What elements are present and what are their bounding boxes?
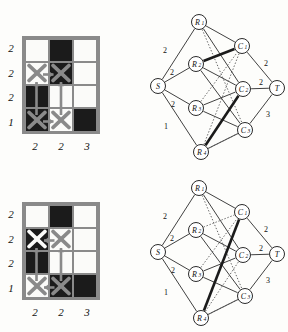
- edge-weight-label: 2: [163, 212, 167, 221]
- node-label: R: [191, 60, 197, 69]
- grid-cell[interactable]: [50, 86, 73, 108]
- edge-weight-label: 2: [170, 68, 174, 77]
- graph-node[interactable]: C2: [236, 248, 251, 263]
- edge-weight-label: 3: [266, 110, 270, 119]
- graph-node[interactable]: R3: [189, 267, 204, 282]
- graph-edge-source: [162, 195, 194, 245]
- graph-node[interactable]: R1: [192, 181, 207, 196]
- edge-weight-label: 2: [171, 266, 175, 275]
- grid-cell[interactable]: [74, 86, 97, 108]
- graph-edge-dotted: [204, 215, 235, 227]
- node-layer: SR1R2R3R4C1C2C3T: [151, 181, 285, 326]
- graph-node[interactable]: C1: [235, 39, 250, 54]
- graph-node[interactable]: R2: [189, 223, 204, 238]
- node-label: T: [275, 250, 280, 259]
- graph-edge-dotted: [204, 54, 239, 145]
- grid-cell[interactable]: [74, 229, 97, 251]
- row-label: 1: [2, 110, 20, 135]
- node-subscript: 3: [198, 106, 202, 112]
- graph-node[interactable]: C3: [238, 289, 253, 304]
- graph-edge: [201, 237, 240, 290]
- node-label: R: [191, 226, 197, 235]
- grid-cell[interactable]: [50, 109, 73, 131]
- edge-weight-label: 1: [164, 288, 168, 297]
- node-subscript: 2: [246, 87, 249, 93]
- graph-edge-sink: [251, 254, 269, 255]
- grid-cell[interactable]: [74, 109, 97, 131]
- grid-cell[interactable]: [26, 40, 49, 62]
- col-label: 3: [74, 304, 100, 320]
- grid-cell[interactable]: [26, 109, 49, 131]
- node-subscript: 2: [199, 228, 202, 234]
- col-label: 3: [74, 138, 100, 154]
- grid-cell[interactable]: [26, 63, 49, 85]
- graph-node[interactable]: T: [270, 81, 285, 96]
- grid-cell[interactable]: [74, 252, 97, 274]
- cross-icon: [50, 229, 73, 251]
- node-subscript: 3: [198, 272, 202, 278]
- grid-cell[interactable]: [74, 63, 97, 85]
- grid-frame: [22, 36, 100, 134]
- grid-cell[interactable]: [50, 229, 73, 251]
- graph-edge-source: [162, 259, 196, 311]
- graph-node[interactable]: R3: [189, 101, 204, 116]
- node-subscript: 2: [246, 253, 249, 259]
- row-label-group: 2221: [2, 202, 20, 300]
- graph-node[interactable]: S: [151, 245, 166, 260]
- graph-edge-highlighted: [204, 220, 239, 311]
- col-label-group: 223: [22, 304, 100, 320]
- grid-cell[interactable]: [50, 40, 73, 62]
- graph-node[interactable]: C1: [235, 205, 250, 220]
- graph-node[interactable]: R1: [192, 15, 207, 30]
- grid-cell[interactable]: [26, 206, 49, 228]
- flow-network-graph: 2221223SR1R2R3R4C1C2C3T: [146, 6, 286, 164]
- graph-node[interactable]: S: [151, 79, 166, 94]
- node-label: C: [239, 251, 245, 260]
- grid-cell[interactable]: [26, 252, 49, 274]
- edge-layer: [162, 192, 272, 314]
- cross-icon: [26, 229, 49, 251]
- grid-cell[interactable]: [26, 275, 49, 297]
- graph-edge-highlighted: [204, 49, 235, 61]
- grid-cell[interactable]: [50, 63, 73, 85]
- grid-cell[interactable]: [26, 229, 49, 251]
- grid-cell[interactable]: [74, 40, 97, 62]
- col-label: 2: [22, 138, 48, 154]
- graph-node[interactable]: C2: [236, 82, 251, 97]
- grid-cell[interactable]: [74, 275, 97, 297]
- row-label: 2: [2, 85, 20, 110]
- cross-icon: [50, 63, 73, 85]
- graph-node[interactable]: R2: [189, 57, 204, 72]
- node-label: R: [194, 184, 200, 193]
- node-subscript: 3: [247, 128, 251, 134]
- edge-weight-label: 2: [171, 100, 175, 109]
- node-label: C: [241, 292, 247, 301]
- node-subscript: 4: [204, 150, 207, 156]
- node-label: C: [241, 126, 247, 135]
- edge-weight-label: 2: [264, 225, 268, 234]
- graph-node[interactable]: C3: [238, 123, 253, 138]
- graph-node[interactable]: R4: [194, 311, 209, 326]
- cross-icon: [50, 275, 73, 297]
- edge-layer: [162, 26, 272, 148]
- grid-cell[interactable]: [50, 275, 73, 297]
- node-subscript: 3: [247, 294, 251, 300]
- node-label: S: [156, 248, 160, 257]
- edge-weight-label: 2: [259, 78, 263, 87]
- puzzle-grid: 2221223: [22, 36, 102, 136]
- col-label: 2: [48, 304, 74, 320]
- grid-cell[interactable]: [50, 252, 73, 274]
- graph-edge-source: [162, 93, 196, 145]
- node-label: T: [275, 84, 280, 93]
- node-label: C: [239, 85, 245, 94]
- node-subscript: 1: [245, 44, 248, 50]
- graph-node[interactable]: T: [270, 247, 285, 262]
- graph-node[interactable]: R4: [194, 145, 209, 160]
- grid-cell[interactable]: [50, 206, 73, 228]
- row-label: 1: [2, 276, 20, 301]
- node-subscript: 2: [199, 62, 202, 68]
- grid-cell[interactable]: [26, 86, 49, 108]
- puzzle-grid: 2221223: [22, 202, 102, 302]
- grid-cell[interactable]: [74, 206, 97, 228]
- node-label: R: [194, 18, 200, 27]
